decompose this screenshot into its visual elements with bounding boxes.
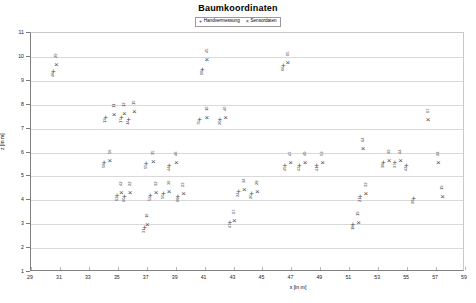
y-axis-tick-label: 9 bbox=[0, 77, 24, 83]
x-axis-tick-label: 53 bbox=[374, 274, 380, 280]
y-axis-tick-label: 10 bbox=[0, 53, 24, 59]
y-axis-tick-mark bbox=[26, 223, 30, 224]
gridline-horizontal bbox=[31, 224, 463, 225]
legend-item-sensordaten: × Sensordaten bbox=[246, 19, 277, 25]
data-point-sensordaten: × bbox=[242, 186, 247, 194]
data-point-label: 70 bbox=[197, 121, 201, 126]
data-point-label: 28 bbox=[255, 180, 259, 185]
data-point-sensordaten: × bbox=[107, 157, 112, 165]
data-point-label: 42 bbox=[404, 166, 408, 171]
x-axis-tick-label: 43 bbox=[230, 274, 236, 280]
y-axis-tick-mark bbox=[26, 104, 30, 105]
data-point-label: 60 bbox=[122, 197, 126, 202]
data-point-label: 36 bbox=[167, 180, 171, 185]
legend-item-handvermessung: + Handvermessung bbox=[199, 19, 240, 25]
data-point-label: 23 bbox=[181, 183, 185, 188]
data-point-label: 42 bbox=[119, 182, 123, 187]
y-axis-tick-mark bbox=[26, 247, 30, 248]
data-point-sensordaten: × bbox=[398, 157, 403, 165]
x-axis-tick-label: 45 bbox=[259, 274, 265, 280]
data-point-sensordaten: × bbox=[112, 111, 117, 119]
data-point-label: 52 bbox=[148, 196, 152, 201]
data-point-sensordaten: × bbox=[361, 145, 366, 153]
y-axis-tick-mark bbox=[26, 175, 30, 176]
x-axis-tick-label: 33 bbox=[85, 274, 91, 280]
y-axis-tick-mark bbox=[26, 32, 30, 33]
data-point-label: 13 bbox=[103, 118, 107, 123]
data-point-label: 19 bbox=[440, 185, 444, 190]
y-axis-tick-label: 1 bbox=[0, 268, 24, 274]
data-point-label: 47 bbox=[288, 152, 292, 157]
gridline-horizontal bbox=[31, 105, 463, 106]
gridline-horizontal bbox=[31, 248, 463, 249]
data-point-label: 20 bbox=[218, 121, 222, 126]
x-axis-tick-label: 55 bbox=[403, 274, 409, 280]
cross-marker-icon: × bbox=[246, 19, 249, 25]
x-axis-tick-mark bbox=[31, 267, 32, 270]
y-axis-tick-label: 6 bbox=[0, 149, 24, 155]
data-point-label: 50 bbox=[161, 195, 165, 200]
x-axis-tick-mark bbox=[349, 267, 350, 270]
x-axis-tick-mark bbox=[205, 267, 206, 270]
data-point-label: 26 bbox=[411, 200, 415, 205]
data-point-sensordaten: × bbox=[151, 158, 156, 166]
gridline-horizontal bbox=[31, 129, 463, 130]
y-axis-title: z [in m] bbox=[0, 133, 5, 150]
y-axis-tick-label: 8 bbox=[0, 101, 24, 107]
data-point-sensordaten: × bbox=[364, 190, 369, 198]
data-point-label: 43 bbox=[297, 166, 301, 171]
data-point-sensordaten: × bbox=[426, 116, 431, 124]
data-point-sensordaten: × bbox=[436, 159, 441, 167]
data-point-sensordaten: × bbox=[320, 159, 325, 167]
y-axis-tick-label: 7 bbox=[0, 125, 24, 131]
x-axis-tick-mark bbox=[118, 267, 119, 270]
data-point-label: 07 bbox=[232, 209, 236, 214]
data-point-label: 16 bbox=[145, 214, 149, 219]
x-axis-tick-label: 51 bbox=[345, 274, 351, 280]
data-point-label: 10 bbox=[205, 106, 209, 111]
data-point-label: 19 bbox=[356, 211, 360, 216]
data-point-sensordaten: × bbox=[132, 108, 137, 116]
y-axis-tick-mark bbox=[26, 56, 30, 57]
gridline-horizontal bbox=[31, 200, 463, 201]
data-point-sensordaten: × bbox=[145, 221, 150, 229]
data-point-label: 08 bbox=[200, 70, 204, 75]
chart-container: Baumkoordinaten + Handvermessung × Senso… bbox=[0, 0, 476, 303]
data-point-label: 45 bbox=[205, 49, 209, 54]
data-point-label: 38 bbox=[381, 164, 385, 169]
chart-title: Baumkoordinaten bbox=[0, 3, 476, 13]
data-point-label: 68 bbox=[176, 197, 180, 202]
x-axis-tick-mark bbox=[291, 267, 292, 270]
data-point-sensordaten: × bbox=[167, 188, 172, 196]
data-point-sensordaten: × bbox=[356, 219, 361, 227]
data-point-label: 15 bbox=[132, 100, 136, 105]
x-axis-tick-mark bbox=[176, 267, 177, 270]
y-axis-tick-label: 2 bbox=[0, 244, 24, 250]
data-point-label: 45 bbox=[283, 166, 287, 171]
data-point-label: 48 bbox=[51, 73, 55, 78]
x-axis-tick-mark bbox=[262, 267, 263, 270]
x-axis-tick-mark bbox=[147, 267, 148, 270]
data-point-label: 22 bbox=[128, 182, 132, 187]
data-point-sensordaten: × bbox=[285, 59, 290, 67]
data-point-label: 56 bbox=[108, 149, 112, 154]
y-axis-tick-mark bbox=[26, 80, 30, 81]
data-point-label: 40 bbox=[223, 106, 227, 111]
data-point-sensordaten: × bbox=[303, 159, 308, 167]
x-axis-tick-mark bbox=[60, 267, 61, 270]
x-axis-tick-label: 39 bbox=[172, 274, 178, 280]
data-point-label: 44 bbox=[398, 149, 402, 154]
data-point-label: 33 bbox=[364, 183, 368, 188]
x-axis-tick-label: 49 bbox=[316, 274, 322, 280]
legend-label-sensordaten: Sensordaten bbox=[250, 19, 276, 24]
data-point-sensordaten: × bbox=[204, 56, 209, 64]
data-point-sensordaten: × bbox=[232, 217, 237, 225]
data-point-sensordaten: × bbox=[128, 189, 133, 197]
legend-label-handvermessung: Handvermessung bbox=[204, 19, 240, 24]
y-axis-tick-mark bbox=[26, 152, 30, 153]
data-point-sensordaten: × bbox=[204, 114, 209, 122]
y-axis-tick-label: 5 bbox=[0, 172, 24, 178]
x-axis-tick-label: 57 bbox=[432, 274, 438, 280]
x-axis-tick-label: 35 bbox=[114, 274, 120, 280]
data-point-sensordaten: × bbox=[255, 188, 260, 196]
